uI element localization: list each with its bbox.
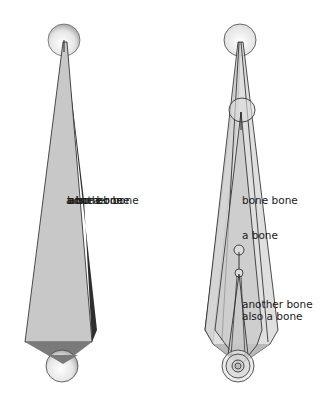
bone-tail-sphere[interactable] — [46, 350, 78, 382]
bone-label-bone-bone: bone bone — [242, 194, 298, 206]
tail-ring-core[interactable] — [235, 363, 241, 369]
solid-bone-labels: a bone bone bone another bone also a bon… — [66, 194, 139, 206]
bone-label-another-bone: another bone — [242, 298, 313, 310]
bone-label-also-a-bone: also a bone — [242, 310, 303, 322]
bone-viewport: a bone bone bone another bone also a bon… — [0, 0, 331, 400]
bone-label-a-bone: a bone — [242, 229, 278, 241]
bone-label: also a bone — [69, 194, 130, 206]
